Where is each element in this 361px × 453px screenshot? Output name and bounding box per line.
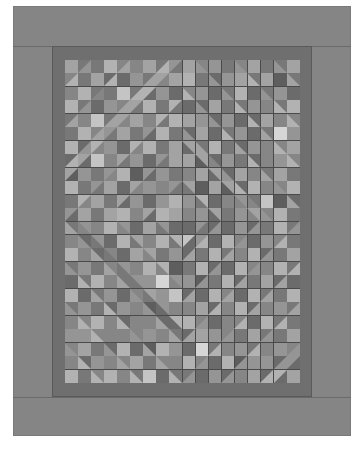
- quilt-cell: [65, 127, 79, 141]
- quilt-cell: [143, 141, 157, 155]
- half-square-triangle: [182, 127, 195, 140]
- quilt-cell: [261, 100, 275, 114]
- quilt-cell: [117, 127, 131, 141]
- quilt-cell: [248, 262, 262, 276]
- quilt-cell: [196, 73, 210, 87]
- half-square-triangle: [195, 356, 208, 369]
- half-square-triangle: [104, 248, 117, 261]
- half-square-triangle: [274, 181, 287, 194]
- quilt-cell: [104, 114, 118, 128]
- quilt-cell: [156, 370, 170, 383]
- quilt-cell: [156, 302, 170, 316]
- half-square-triangle: [65, 302, 78, 315]
- quilt-cell: [261, 302, 275, 316]
- quilt-cell: [196, 316, 210, 330]
- quilt-cell: [130, 275, 144, 289]
- half-square-triangle: [169, 141, 182, 154]
- quilt-cell: [183, 275, 197, 289]
- quilt-cell: [235, 262, 249, 276]
- half-square-triangle: [104, 262, 117, 275]
- quilt-cell: [156, 154, 170, 168]
- quilt-cell: [209, 60, 223, 74]
- quilt-cell: [235, 114, 249, 128]
- quilt-cell: [248, 168, 262, 182]
- half-square-triangle: [195, 100, 208, 113]
- quilt-cell: [78, 87, 92, 101]
- quilt-cell: [183, 154, 197, 168]
- half-square-triangle: [287, 262, 300, 275]
- quilt-cell: [261, 195, 275, 209]
- quilt-cell: [104, 262, 118, 276]
- quilt-cell: [78, 195, 92, 209]
- quilt-cell: [209, 141, 223, 155]
- quilt-cell: [91, 329, 105, 343]
- quilt-cell: [156, 316, 170, 330]
- quilt-cell: [274, 275, 288, 289]
- half-square-triangle: [78, 154, 91, 167]
- quilt-cell: [169, 248, 183, 262]
- quilt-cell: [235, 141, 249, 155]
- quilt-cell: [117, 208, 131, 222]
- half-square-triangle: [247, 114, 260, 127]
- half-square-triangle: [260, 248, 273, 261]
- quilt-cell: [183, 114, 197, 128]
- quilt-cell: [78, 370, 92, 383]
- half-square-triangle: [169, 100, 182, 113]
- quilt-cell: [104, 127, 118, 141]
- quilt-cell: [183, 60, 197, 74]
- quilt-cell: [274, 262, 288, 276]
- half-square-triangle: [104, 114, 117, 127]
- quilt-cell: [117, 154, 131, 168]
- quilt-cell: [169, 141, 183, 155]
- quilt-cell: [65, 329, 79, 343]
- quilt-cell: [222, 343, 236, 357]
- quilt-cell: [235, 235, 249, 249]
- half-square-triangle: [104, 168, 117, 181]
- quilt-cell: [209, 356, 223, 370]
- quilt-cell: [91, 248, 105, 262]
- quilt-cell: [156, 235, 170, 249]
- half-square-triangle: [195, 275, 208, 288]
- half-square-triangle: [221, 248, 234, 261]
- quilt-cell: [209, 168, 223, 182]
- half-square-triangle: [208, 343, 221, 356]
- quilt-cell: [209, 73, 223, 87]
- quilt-cell: [78, 222, 92, 236]
- half-square-triangle: [182, 235, 195, 248]
- quilt-cell: [91, 154, 105, 168]
- quilt-cell: [287, 127, 300, 141]
- half-square-triangle: [260, 87, 273, 100]
- quilt-cell: [169, 235, 183, 249]
- half-square-triangle: [234, 181, 247, 194]
- quilt-cell: [156, 73, 170, 87]
- quilt-cell: [91, 343, 105, 357]
- quilt-cell: [169, 329, 183, 343]
- half-square-triangle: [143, 73, 156, 86]
- quilt-cell: [248, 356, 262, 370]
- half-square-triangle: [65, 208, 78, 221]
- quilt-cell: [287, 154, 300, 168]
- quilt-cell: [183, 195, 197, 209]
- quilt-cell: [143, 235, 157, 249]
- half-square-triangle: [117, 262, 130, 275]
- half-square-triangle: [143, 168, 156, 181]
- quilt-cell: [248, 208, 262, 222]
- quilt-cell: [235, 168, 249, 182]
- quilt-cell: [78, 114, 92, 128]
- half-square-triangle: [91, 248, 104, 261]
- quilt-cell: [169, 195, 183, 209]
- quilt-cell: [274, 302, 288, 316]
- quilt-cell: [169, 114, 183, 128]
- quilt-cell: [78, 316, 92, 330]
- half-square-triangle: [117, 100, 130, 113]
- quilt-cell: [78, 73, 92, 87]
- quilt-cell: [78, 100, 92, 114]
- quilt-cell: [169, 302, 183, 316]
- quilt-cell: [183, 248, 197, 262]
- quilt-cell: [78, 127, 92, 141]
- quilt-cell: [130, 343, 144, 357]
- quilt-cell: [183, 343, 197, 357]
- quilt-cell: [248, 275, 262, 289]
- quilt-cell: [104, 316, 118, 330]
- quilt-cell: [222, 275, 236, 289]
